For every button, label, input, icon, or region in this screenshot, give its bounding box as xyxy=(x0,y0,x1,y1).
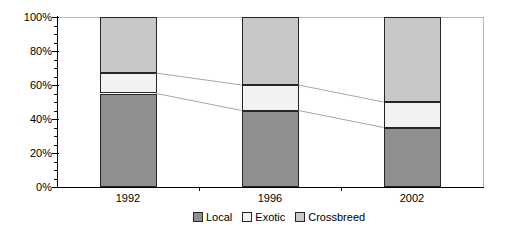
bar-segment-local xyxy=(242,111,299,188)
x-category-label: 1992 xyxy=(57,192,199,205)
y-minor-tick xyxy=(54,60,57,61)
y-minor-tick xyxy=(54,179,57,180)
x-category-label: 1996 xyxy=(199,192,341,205)
x-category-label: 2002 xyxy=(341,192,483,205)
y-minor-tick xyxy=(54,77,57,78)
bar-segment-crossbreed xyxy=(384,17,441,102)
legend-item-exotic: Exotic xyxy=(242,211,285,223)
y-minor-tick xyxy=(54,170,57,171)
y-major-tick xyxy=(52,119,59,120)
x-axis-line xyxy=(57,187,484,188)
legend-item-crossbreed: Crossbreed xyxy=(295,211,365,223)
legend-label: Local xyxy=(206,211,232,223)
bar-segment-local xyxy=(384,128,441,188)
y-major-tick xyxy=(52,51,59,52)
legend-swatch-crossbreed xyxy=(295,212,305,222)
y-major-tick xyxy=(52,153,59,154)
y-minor-tick xyxy=(54,111,57,112)
x-category-tick xyxy=(341,187,342,191)
bar-segment-exotic xyxy=(100,73,157,93)
y-tick-label: 20% xyxy=(12,147,52,159)
bar-segment-crossbreed xyxy=(242,17,299,85)
y-axis-line xyxy=(57,16,58,187)
y-major-tick xyxy=(52,85,59,86)
bar-segment-local xyxy=(100,94,157,188)
y-minor-tick xyxy=(54,128,57,129)
y-tick-label: 40% xyxy=(12,113,52,125)
y-minor-tick xyxy=(54,68,57,69)
legend-swatch-local xyxy=(193,212,203,222)
series-connector-line xyxy=(299,85,384,102)
legend-label: Crossbreed xyxy=(308,211,365,223)
legend-item-local: Local xyxy=(193,211,232,223)
y-minor-tick xyxy=(54,162,57,163)
y-minor-tick xyxy=(54,136,57,137)
y-major-tick xyxy=(52,17,59,18)
legend-label: Exotic xyxy=(255,211,285,223)
y-tick-label: 60% xyxy=(12,79,52,91)
y-minor-tick xyxy=(54,102,57,103)
y-minor-tick xyxy=(54,145,57,146)
bar-segment-crossbreed xyxy=(100,17,157,73)
x-category-tick xyxy=(199,187,200,191)
plot-right-border xyxy=(483,17,484,187)
y-tick-label: 0% xyxy=(12,181,52,193)
y-minor-tick xyxy=(54,43,57,44)
legend: LocalExoticCrossbreed xyxy=(193,211,365,223)
series-connector-line xyxy=(157,94,242,111)
y-tick-label: 80% xyxy=(12,45,52,57)
legend-swatch-exotic xyxy=(242,212,252,222)
y-minor-tick xyxy=(54,34,57,35)
stacked-bar-chart: 0%20%40%60%80%100% 199219962002 LocalExo… xyxy=(0,0,505,236)
y-tick-label: 100% xyxy=(12,11,52,23)
series-connector-line xyxy=(299,111,384,128)
y-minor-tick xyxy=(54,94,57,95)
bar-segment-exotic xyxy=(242,85,299,111)
y-minor-tick xyxy=(54,26,57,27)
y-major-tick xyxy=(52,187,59,188)
series-connector-line xyxy=(157,73,242,85)
bar-segment-exotic xyxy=(384,102,441,128)
